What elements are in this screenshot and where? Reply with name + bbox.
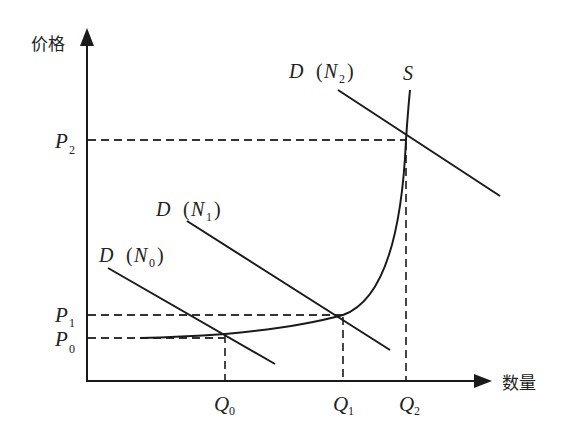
x-axis-arrow-icon: [474, 374, 492, 388]
svg-text:(: (: [126, 244, 133, 267]
supply-demand-diagram: 价格 数量 S D ( N 2 ) D ( N 1 ) D ( N 0: [0, 0, 577, 446]
svg-text:N: N: [133, 244, 149, 266]
quantity-label-q1: Q 1: [333, 392, 354, 418]
quantity-label-q0: Q 0: [214, 392, 235, 418]
x-axis: [86, 374, 492, 388]
supply-curve: [140, 90, 410, 338]
svg-text:1: 1: [348, 404, 354, 418]
svg-text:D: D: [288, 60, 304, 82]
svg-text:): ): [347, 60, 354, 83]
svg-text:Q: Q: [399, 392, 414, 416]
demand-label-n2: D ( N 2 ): [288, 60, 354, 86]
price-label-p2: P 2: [54, 129, 75, 157]
svg-text:Q: Q: [214, 392, 229, 416]
svg-text:(: (: [183, 198, 190, 221]
supply-label: S: [403, 62, 413, 84]
svg-text:2: 2: [414, 404, 420, 418]
svg-text:P: P: [54, 129, 68, 153]
svg-text:2: 2: [69, 143, 75, 157]
price-label-p0: P 0: [54, 327, 75, 356]
svg-text:0: 0: [69, 342, 75, 356]
quantity-label-q2: Q 2: [399, 392, 420, 418]
demand-label-n0: D ( N 0 ): [98, 244, 164, 270]
svg-text:2: 2: [339, 72, 345, 86]
y-axis: [80, 28, 94, 382]
svg-text:D: D: [98, 244, 114, 266]
svg-text:1: 1: [69, 316, 75, 330]
svg-text:(: (: [316, 60, 323, 83]
x-axis-label: 数量: [502, 373, 536, 393]
svg-text:Q: Q: [333, 392, 348, 416]
svg-text:): ): [214, 198, 221, 221]
svg-text:N: N: [323, 60, 339, 82]
demand-curve-n2: [338, 90, 500, 196]
svg-text:P: P: [54, 303, 68, 327]
svg-text:0: 0: [229, 404, 235, 418]
svg-text:): ): [157, 244, 164, 267]
demand-label-n1: D ( N 1 ): [155, 198, 221, 224]
svg-text:P: P: [54, 327, 68, 351]
svg-text:1: 1: [206, 210, 212, 224]
y-axis-label: 价格: [31, 34, 65, 54]
svg-text:D: D: [155, 198, 171, 220]
price-label-p1: P 1: [54, 303, 75, 330]
svg-text:0: 0: [149, 256, 155, 270]
svg-text:N: N: [190, 198, 206, 220]
demand-curve-n0: [108, 268, 275, 364]
y-axis-arrow-icon: [80, 28, 94, 46]
